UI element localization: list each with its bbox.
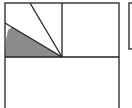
geometry-diagram [0,0,132,108]
right-partial-shape [129,3,132,49]
